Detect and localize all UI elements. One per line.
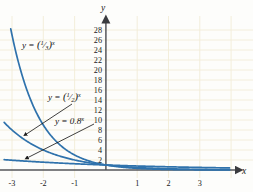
y-tick: 22 [94, 56, 102, 65]
y-tick: 16 [94, 86, 102, 95]
y-tick: 10 [94, 116, 102, 125]
x-tick-labels: -3 -2 -1 1 2 3 [9, 179, 202, 188]
x-tick: 3 [198, 179, 202, 188]
x-tick: 2 [166, 179, 170, 188]
x-tick: -1 [71, 179, 78, 188]
label-curve-one-half: y =(1⁄2)x [47, 91, 81, 104]
label-curve-one-third: y =(1⁄3)x [21, 39, 55, 52]
graph-canvas: 28 26 24 22 20 18 16 14 12 10 8 6 4 2 -3… [0, 0, 253, 192]
y-tick: 26 [94, 36, 102, 45]
arrow-to-zero-point-eight-curve [28, 124, 94, 158]
axis-lines [0, 22, 236, 170]
exponential-decay-graph-figure: 28 26 24 22 20 18 16 14 12 10 8 6 4 2 -3… [0, 0, 253, 192]
y-tick: 24 [94, 46, 102, 55]
x-tick: 1 [135, 179, 139, 188]
x-tick: -3 [9, 179, 16, 188]
y-tick: 12 [94, 106, 102, 115]
y-axis-name: y [100, 3, 106, 13]
y-tick: 28 [94, 26, 102, 35]
y-tick: 14 [94, 96, 102, 105]
y-tick: 8 [98, 126, 102, 135]
x-tick: -2 [40, 179, 47, 188]
label-curve-zero-point-eight: y = 0.8x [54, 115, 84, 126]
y-tick: 20 [94, 66, 102, 75]
y-tick: 6 [98, 136, 102, 145]
y-tick: 18 [94, 76, 102, 85]
x-axis-name: x [241, 166, 247, 176]
y-tick: 4 [98, 146, 102, 155]
y-tick-labels: 28 26 24 22 20 18 16 14 12 10 8 6 4 2 [94, 26, 102, 165]
